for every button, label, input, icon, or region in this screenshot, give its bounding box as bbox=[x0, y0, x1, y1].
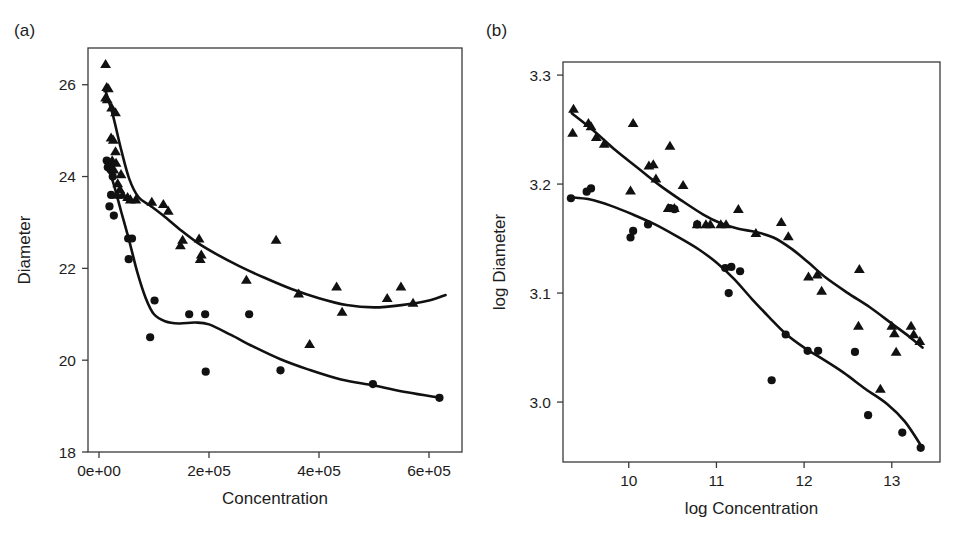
y-tick-label-1: 20 bbox=[59, 352, 77, 369]
data-point-circle bbox=[587, 184, 595, 192]
x-tick-label-0: 0e+00 bbox=[77, 462, 121, 479]
panel-a: (a) 0e+002e+054e+056e+051820222426Concen… bbox=[0, 0, 480, 542]
data-point-circle bbox=[917, 444, 925, 452]
data-point-circle bbox=[146, 333, 154, 341]
y-axis-title: Diameter bbox=[15, 215, 34, 284]
x-axis-title: Concentration bbox=[222, 489, 328, 508]
x-tick-label-0: 10 bbox=[620, 472, 638, 489]
data-point-triangle bbox=[908, 329, 919, 338]
data-point-circle bbox=[110, 211, 118, 219]
data-point-circle bbox=[782, 330, 790, 338]
fit-curve-circle-loess bbox=[570, 197, 922, 448]
y-tick-label-2: 22 bbox=[59, 260, 76, 277]
data-point-triangle bbox=[803, 272, 814, 281]
panel-b-plot: 101112133.03.13.23.3log Concentrationlog… bbox=[480, 0, 963, 542]
data-point-circle bbox=[276, 366, 284, 374]
data-point-triangle bbox=[733, 204, 744, 213]
fit-curve-triangle-loess bbox=[105, 89, 445, 307]
data-point-triangle bbox=[337, 307, 348, 316]
data-point-circle bbox=[107, 191, 115, 199]
data-point-triangle bbox=[854, 264, 865, 273]
x-tick-label-2: 12 bbox=[795, 472, 812, 489]
y-tick-label-4: 26 bbox=[59, 76, 76, 93]
data-point-circle bbox=[768, 376, 776, 384]
y-tick-label-1: 3.1 bbox=[529, 285, 551, 302]
data-point-circle bbox=[864, 411, 872, 419]
data-point-triangle bbox=[816, 286, 827, 295]
data-point-triangle bbox=[776, 217, 787, 226]
data-point-triangle bbox=[304, 339, 315, 348]
y-tick-label-3: 3.3 bbox=[529, 67, 551, 84]
figure-container: (a) 0e+002e+054e+056e+051820222426Concen… bbox=[0, 0, 963, 542]
data-point-circle bbox=[201, 310, 209, 318]
x-tick-label-1: 2e+05 bbox=[187, 462, 231, 479]
x-axis-title: log Concentration bbox=[685, 499, 818, 518]
data-point-circle bbox=[128, 234, 136, 242]
data-point-triangle bbox=[241, 275, 252, 284]
data-point-circle bbox=[851, 348, 859, 356]
data-point-triangle bbox=[783, 231, 794, 240]
data-point-triangle bbox=[665, 141, 676, 150]
data-point-triangle bbox=[382, 293, 393, 302]
data-point-circle bbox=[725, 289, 733, 297]
data-point-triangle bbox=[146, 197, 157, 206]
data-point-triangle bbox=[906, 321, 917, 330]
data-point-triangle bbox=[678, 180, 689, 189]
data-point-circle bbox=[644, 220, 652, 228]
x-tick-label-3: 13 bbox=[883, 472, 900, 489]
data-point-circle bbox=[567, 194, 575, 202]
fit-curve-triangle-loess bbox=[572, 113, 923, 347]
data-point-circle bbox=[202, 368, 210, 376]
data-point-triangle bbox=[567, 128, 578, 137]
data-point-triangle bbox=[853, 321, 864, 330]
x-tick-label-1: 11 bbox=[708, 472, 724, 489]
y-axis-title: log Diameter bbox=[490, 213, 509, 310]
data-point-circle bbox=[670, 205, 678, 213]
y-tick-label-0: 18 bbox=[59, 444, 76, 461]
data-point-circle bbox=[693, 220, 701, 228]
data-point-circle bbox=[150, 296, 158, 304]
data-point-triangle bbox=[110, 146, 121, 155]
data-point-triangle bbox=[100, 59, 111, 68]
data-point-circle bbox=[105, 202, 113, 210]
data-point-circle bbox=[804, 347, 812, 355]
data-point-circle bbox=[369, 380, 377, 388]
data-point-triangle bbox=[625, 185, 636, 194]
data-point-triangle bbox=[891, 347, 902, 356]
data-point-circle bbox=[185, 310, 193, 318]
data-point-triangle bbox=[875, 384, 886, 393]
data-point-circle bbox=[435, 394, 443, 402]
data-point-triangle bbox=[271, 235, 282, 244]
data-point-triangle bbox=[628, 118, 639, 127]
data-point-triangle bbox=[396, 282, 407, 291]
panel-a-plot: 0e+002e+054e+056e+051820222426Concentrat… bbox=[0, 0, 480, 542]
y-tick-label-3: 24 bbox=[59, 168, 77, 185]
data-point-triangle bbox=[568, 104, 579, 113]
panel-b: (b) 101112133.03.13.23.3log Concentratio… bbox=[480, 0, 963, 542]
data-point-circle bbox=[245, 310, 253, 318]
data-point-circle bbox=[727, 263, 735, 271]
data-point-triangle bbox=[194, 233, 205, 242]
y-tick-label-0: 3.0 bbox=[529, 394, 551, 411]
data-point-circle bbox=[814, 347, 822, 355]
data-point-circle bbox=[629, 227, 637, 235]
data-point-circle bbox=[125, 255, 133, 263]
x-tick-label-2: 4e+05 bbox=[297, 462, 341, 479]
data-point-circle bbox=[736, 267, 744, 275]
y-tick-label-2: 3.2 bbox=[529, 176, 551, 193]
data-point-circle bbox=[898, 428, 906, 436]
data-point-triangle bbox=[158, 199, 169, 208]
x-tick-label-3: 6e+05 bbox=[407, 462, 451, 479]
data-point-circle bbox=[109, 172, 117, 180]
data-point-triangle bbox=[331, 282, 342, 291]
